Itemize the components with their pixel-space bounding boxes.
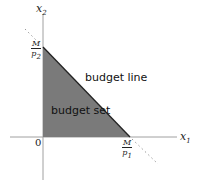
budget-set-label: budget set: [51, 104, 110, 117]
budget-line-extension-bottom: [132, 139, 158, 164]
budget-line-label: budget line: [85, 71, 147, 84]
y-axis-label: x2: [36, 2, 47, 17]
y-intercept-label: M p2: [31, 39, 41, 62]
diagram-canvas: [0, 0, 201, 187]
budget-diagram: x2 x1 0 M p2 M p1 budget set budget line: [0, 0, 201, 187]
x-intercept-label: M p1: [122, 138, 132, 161]
x-axis-label: x1: [180, 130, 191, 145]
origin-label: 0: [35, 137, 41, 148]
